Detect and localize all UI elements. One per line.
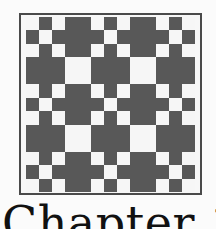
quilt-dark-square [39,17,52,30]
quilt-dark-square [104,152,117,165]
quilt-dark-square [91,125,104,138]
quilt-light-square [52,111,65,124]
quilt-light-square [156,84,169,97]
quilt-dark-square [52,30,65,43]
quilt-light-square [182,111,195,124]
quilt-light-square [52,179,65,192]
quilt-dark-square [91,30,104,43]
quilt-light-square [91,17,104,30]
quilt-dark-square [130,111,143,124]
quilt-dark-square [91,165,104,178]
quilt-dark-square [117,138,130,151]
quilt-dark-square [65,111,78,124]
quilt-dark-square [117,125,130,138]
quilt-dark-square [156,98,169,111]
quilt-dark-square [104,84,117,97]
quilt-dark-square [156,71,169,84]
quilt-dark-square [104,57,117,70]
quilt-dark-square [91,71,104,84]
quilt-light-square [156,44,169,57]
quilt-dark-square [52,98,65,111]
quilt-light-square [143,57,156,70]
quilt-light-square [117,152,130,165]
quilt-dark-square [182,138,195,151]
quilt-dark-square [104,125,117,138]
quilt-light-square [156,179,169,192]
quilt-light-square [117,179,130,192]
quilt-dark-square [182,125,195,138]
quilt-light-square [78,57,91,70]
quilt-dark-square [143,165,156,178]
quilt-dark-square [156,30,169,43]
quilt-light-square [104,30,117,43]
quilt-light-square [91,84,104,97]
quilt-dark-square [182,30,195,43]
quilt-dark-square [169,152,182,165]
quilt-dark-square [156,125,169,138]
quilt-dark-square [117,57,130,70]
quilt-dark-square [130,44,143,57]
quilt-dark-square [26,57,39,70]
quilt-dark-square [78,30,91,43]
quilt-light-square [91,152,104,165]
quilt-light-square [169,165,182,178]
quilt-light-square [65,57,78,70]
quilt-light-square [65,125,78,138]
quilt-light-square [130,125,143,138]
quilt-light-square [182,44,195,57]
quilt-dark-square [130,98,143,111]
quilt-dark-square [104,17,117,30]
quilt-light-square [52,84,65,97]
quilt-dark-square [143,30,156,43]
quilt-dark-square [26,30,39,43]
quilt-dark-square [169,125,182,138]
quilt-light-square [52,152,65,165]
quilt-dark-square [130,84,143,97]
quilt-dark-square [91,57,104,70]
quilt-light-square [52,44,65,57]
quilt-light-square [104,98,117,111]
quilt-light-square [91,179,104,192]
quilt-dark-square [169,17,182,30]
quilt-dark-square [130,152,143,165]
quilt-dark-square [156,138,169,151]
quilt-dark-square [143,152,156,165]
quilt-dark-square [78,44,91,57]
quilt-dark-square [39,125,52,138]
quilt-dark-square [104,138,117,151]
quilt-light-square [117,111,130,124]
quilt-light-square [39,98,52,111]
quilt-light-square [39,165,52,178]
quilt-dark-square [169,111,182,124]
quilt-dark-square [78,152,91,165]
quilt-light-square [156,17,169,30]
quilt-dark-square [117,30,130,43]
quilt-dark-square [169,84,182,97]
quilt-dark-square [169,138,182,151]
quilt-dark-square [78,84,91,97]
quilt-dark-square [104,111,117,124]
quilt-dark-square [182,165,195,178]
quilt-dark-square [26,138,39,151]
quilt-dark-square [39,111,52,124]
quilt-light-square [26,179,39,192]
quilt-dark-square [78,98,91,111]
quilt-dark-square [169,71,182,84]
quilt-dark-square [65,30,78,43]
quilt-dark-square [39,179,52,192]
quilt-dark-square [117,165,130,178]
quilt-dark-square [117,71,130,84]
chapter-heading: Chapter 1 [0,200,216,229]
quilt-light-square [65,71,78,84]
quilt-dark-square [117,98,130,111]
quilt-light-square [78,71,91,84]
quilt-dark-square [104,44,117,57]
quilt-light-square [130,57,143,70]
quilt-dark-square [78,111,91,124]
quilt-dark-square [39,152,52,165]
quilt-dark-square [169,179,182,192]
quilt-light-square [78,125,91,138]
quilt-light-square [156,152,169,165]
quilt-dark-square [26,71,39,84]
quilt-dark-square [65,98,78,111]
